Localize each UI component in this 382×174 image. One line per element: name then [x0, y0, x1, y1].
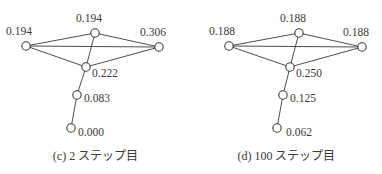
graph-node-value-label: 0.000	[78, 127, 104, 139]
graph-node[interactable]	[155, 43, 163, 51]
graph-edge	[290, 47, 362, 67]
graph-node-value-label: 0.188	[343, 27, 369, 39]
graph-node-value-label: 0.306	[140, 27, 166, 39]
graph-node[interactable]	[286, 63, 294, 71]
graph-node[interactable]	[295, 29, 303, 37]
graph-edge	[86, 33, 95, 67]
graph-node-value-label: 0.222	[92, 68, 118, 80]
graph-edge	[71, 95, 77, 128]
graph-node[interactable]	[91, 29, 99, 37]
graph-node-value-label: 0.188	[280, 13, 306, 25]
graph-edge	[290, 33, 299, 67]
caption-d: (d) 100 ステップ目	[191, 146, 382, 164]
graph-node-value-label: 0.250	[296, 68, 322, 80]
graph-node[interactable]	[279, 91, 287, 99]
graph-node-value-label: 0.194	[76, 13, 102, 25]
graph-node[interactable]	[67, 124, 75, 132]
figure-row: 0.1940.1940.3060.2220.0830.000 (c) 2 ステッ…	[0, 0, 382, 174]
graph-node-value-label: 0.194	[6, 26, 32, 38]
graph-edge	[26, 46, 159, 47]
figure-panel-d: 0.1880.1880.1880.2500.1250.062 (d) 100 ス…	[191, 0, 382, 174]
graph-node[interactable]	[358, 43, 366, 51]
graph-edge	[26, 46, 86, 67]
graph-node[interactable]	[82, 63, 90, 71]
graph-node[interactable]	[273, 124, 281, 132]
graph-node-value-label: 0.062	[286, 127, 312, 139]
graph-edge	[277, 95, 283, 128]
graph-edge	[86, 47, 159, 67]
graph-edge	[229, 46, 290, 67]
graph-node[interactable]	[73, 91, 81, 99]
figure-panel-c: 0.1940.1940.3060.2220.0830.000 (c) 2 ステッ…	[0, 0, 191, 174]
caption-c: (c) 2 ステップ目	[0, 146, 191, 164]
graph-edge	[26, 33, 95, 46]
graph-node-value-label: 0.188	[209, 26, 235, 38]
graph-node[interactable]	[22, 42, 30, 50]
graph-node-value-label: 0.083	[84, 93, 110, 105]
graph-node[interactable]	[225, 42, 233, 50]
graph-node-value-label: 0.125	[290, 93, 316, 105]
graph-edge	[229, 33, 299, 46]
